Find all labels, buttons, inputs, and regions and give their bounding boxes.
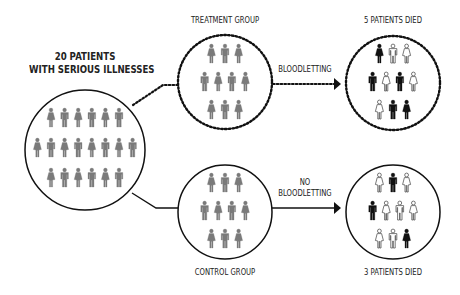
all-patients-circle [25, 90, 145, 210]
control-outcome-label: 3 PATIENTS DIED [350, 268, 436, 277]
treatment-outcome-label: 5 PATIENTS DIED [350, 16, 436, 25]
arrow-bloodletting-head [334, 78, 341, 90]
all-patients-title-line2: WITH SERIOUS ILLNESSES [29, 63, 141, 76]
bloodletting-label: BLOODLETTING [271, 65, 340, 74]
all-patients-title-line1: 20 PATIENTS [29, 50, 141, 63]
no-bloodletting-label-line2: BLOODLETTING [271, 189, 340, 198]
arrow-no-bloodletting-head [334, 202, 341, 214]
bloodletting-experiment-diagram [0, 0, 460, 295]
all-patients-title: 20 PATIENTS WITH SERIOUS ILLNESSES [29, 50, 141, 76]
no-bloodletting-label-line1: NO [271, 178, 340, 187]
connector-to-treatment [133, 85, 178, 105]
treatment-group-label: TREATMENT GROUP [182, 16, 268, 25]
control-group-label: CONTROL GROUP [182, 268, 268, 277]
connector-to-control [132, 193, 178, 208]
